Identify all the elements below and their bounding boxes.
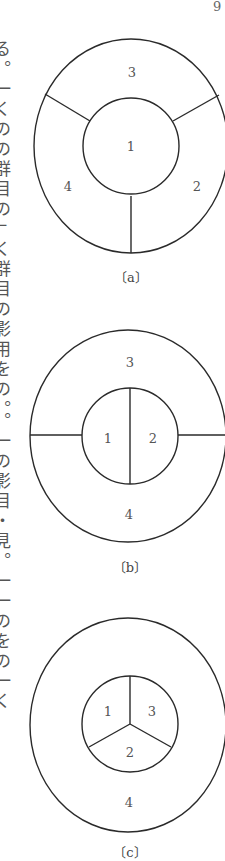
diagram-canvas: 1 2 3 4 〔a〕 1 2 3 4 〔b〕 1 2 3 4 〔c〕 <box>0 0 225 861</box>
divider-c-lower-right <box>130 724 171 747</box>
region-label-c-2: 2 <box>126 745 134 760</box>
divider-c-lower-left <box>89 724 130 747</box>
caption-a: 〔a〕 <box>114 270 148 285</box>
region-label-b-2: 2 <box>149 431 157 446</box>
caption-b: 〔b〕 <box>113 560 147 575</box>
region-label-c-1: 1 <box>104 704 112 719</box>
region-label-b-3: 3 <box>126 355 134 370</box>
region-label-b-4: 4 <box>125 507 133 522</box>
region-label-a-2: 2 <box>193 179 201 194</box>
region-label-c-4: 4 <box>125 795 133 810</box>
region-label-a-1: 1 <box>127 139 135 154</box>
caption-c: 〔c〕 <box>113 845 146 860</box>
region-label-b-1: 1 <box>104 431 112 446</box>
region-label-a-4: 4 <box>64 179 72 194</box>
region-label-c-3: 3 <box>148 704 156 719</box>
region-label-a-3: 3 <box>128 65 136 80</box>
spoke-a-upper-right <box>173 95 219 121</box>
spoke-a-upper-left <box>45 94 90 121</box>
